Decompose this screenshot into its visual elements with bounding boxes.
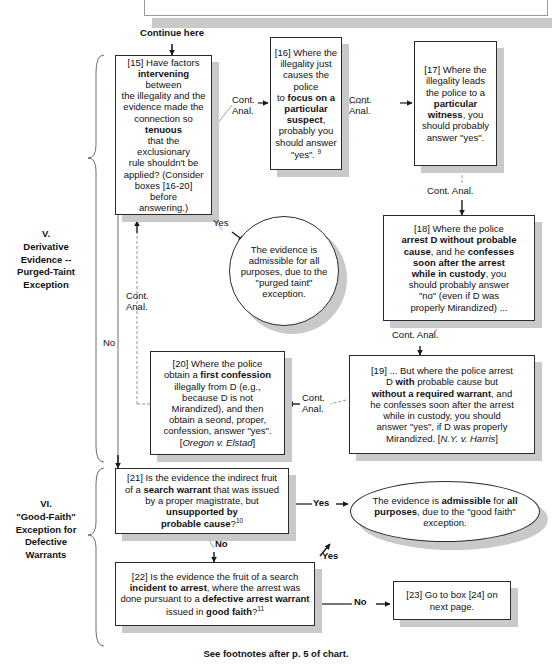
flowchart-canvas: Continue here V. Derivative Evidence -- … [0, 0, 552, 669]
edge-label-18-19-cont-anal: Cont. Anal. [392, 330, 462, 341]
box-15-l10: answering.) [139, 202, 188, 213]
box-19-l8: Mirandized. [ [386, 433, 440, 444]
box-17-l4: , you [463, 109, 484, 120]
edge-label-20-15-cont-anal: Cont. Anal. [126, 291, 160, 313]
ellipse-gf-l1: The evidence is [372, 495, 441, 506]
box-22-l4: issued in [166, 606, 206, 617]
box-18-l4: should probably answer [409, 279, 509, 290]
box-18-l5: "no" (even if D was [419, 290, 499, 301]
edge-label-17-18-cont-anal: Cont. Anal. [427, 186, 497, 197]
box-19-b2: without a required warrant [372, 388, 491, 399]
box-20-l4: because D is not [182, 392, 253, 403]
box-20-l1: [20] Where the police [173, 358, 263, 369]
box-22-l1: [22] Is the evidence the fruit of a sear… [132, 571, 298, 582]
box-15-l1: [15] Have factors [128, 57, 200, 68]
edge-label-22-no: No [354, 597, 374, 608]
ellipse-gf-l3: , due to the "good faith" [417, 506, 516, 517]
box-22-l2: , where the arrest was [207, 582, 300, 593]
box-15-l5: connection so [134, 113, 193, 124]
box-18-b4: soon after the arrest [413, 257, 505, 268]
box-16[interactable]: [16] Where the illegality just causes th… [270, 37, 342, 170]
box-23-l1: [23] Go to box [24] on [406, 589, 497, 600]
circle-purged-taint[interactable]: The evidence is admissible for all purpo… [229, 216, 339, 326]
box-15-b1: intervening [138, 68, 189, 79]
box-16-l3: causes the police [283, 69, 329, 91]
box-16-l8: "yes". [291, 149, 318, 160]
footer-note: See footnotes after p. 5 of chart. [0, 648, 552, 659]
box-15-l3: the illegality and the [122, 90, 206, 101]
box-19-l3: probable cause but [415, 376, 498, 387]
box-15-l8: applied? (Consider [124, 169, 204, 180]
circle-purged-l2: admissible for all [249, 255, 320, 266]
edge-label-21-no: No [215, 539, 235, 550]
box-16-footnote-marker: 9 [318, 148, 322, 155]
top-box-shadow [152, 18, 552, 28]
box-22-b3: good faith [206, 606, 252, 617]
edge-label-21-yes: Yes [313, 498, 337, 509]
ellipse-gf-l2: for [491, 495, 507, 506]
box-18-b3: confesses [468, 246, 514, 257]
box-15-l4: evidence made the [123, 101, 203, 112]
box-18-l3: , you [486, 268, 507, 279]
circle-purged-l1: The evidence is [251, 244, 318, 255]
box-16-l4: to [277, 92, 288, 103]
box-19[interactable]: [19] ... But where the police arrest D w… [349, 355, 535, 454]
box-15[interactable]: [15] Have factors intervening between th… [115, 55, 212, 215]
box-19-l2: D [386, 376, 396, 387]
box-17-b2: witness [428, 109, 463, 120]
box-17-l1: [17] Where the [424, 64, 486, 75]
box-22-b1: incident to arrest [130, 582, 207, 593]
ellipse-gf-b3: purposes [374, 506, 417, 517]
box-16-l6: probably you [279, 125, 333, 136]
ellipse-gf-b1: admissible [442, 495, 491, 506]
box-17-b1: particular [434, 98, 477, 109]
box-16-l5: , [323, 114, 326, 125]
edge-label-15-yes: Yes [213, 218, 237, 229]
box-22-footnote-marker: 11 [257, 605, 264, 612]
box-20-l9: ] [253, 437, 256, 448]
box-21-b3: probable cause [161, 518, 231, 529]
box-22-b2: defective arrest warrant [202, 593, 309, 604]
ellipse-gf-l4: exception. [423, 517, 466, 528]
edge-label-15-no: No [103, 338, 123, 349]
ellipse-good-faith[interactable]: The evidence is admissible for all purpo… [350, 481, 540, 542]
box-23-l2: next page. [430, 601, 474, 612]
box-17-l2: illegality leads [426, 75, 485, 86]
box-23[interactable]: [23] Go to box [24] on next page. [393, 581, 511, 620]
continue-here-label: Continue here [122, 28, 222, 39]
box-15-l2: between [146, 79, 182, 90]
box-20-l2: obtain a [164, 369, 200, 380]
box-19-l4: , and [491, 388, 512, 399]
top-cutoff-box [144, 0, 548, 16]
box-16-l7: should answer [275, 137, 336, 148]
box-18-l6: properly Mirandized) ... [410, 302, 507, 313]
box-20-b1: first confession [200, 369, 271, 380]
box-21[interactable]: [21] Is the evidence the indirect fruit … [115, 468, 289, 534]
box-18[interactable]: [18] Where the police arrest D without p… [383, 215, 535, 321]
box-20-citation: Oregon v. Elstad [182, 437, 252, 448]
box-16-l1: [16] Where the [275, 47, 337, 58]
box-22[interactable]: [22] Is the evidence the fruit of a sear… [115, 562, 315, 626]
edge-label-22-yes: Yes [322, 551, 346, 562]
box-20[interactable]: [20] Where the police obtain a first con… [150, 351, 285, 455]
box-16-b1: focus on a [288, 92, 336, 103]
box-19-l6: while in custody, you should [383, 410, 501, 421]
box-19-l9: ] [495, 433, 498, 444]
box-16-l2: illegality just [280, 58, 331, 69]
ellipse-gf-b2: all [507, 495, 518, 506]
section-label-v: V. Derivative Evidence -- Purged-Taint E… [4, 228, 88, 292]
box-21-footnote-marker: 10 [236, 517, 243, 524]
box-15-l7: rule shouldn't be [129, 157, 198, 168]
edge-label-16-17-cont-anal: Cont. Anal. [349, 95, 383, 117]
box-19-l7: answer "yes", if D was properly [377, 421, 508, 432]
section-label-vi: VI. "Good-Faith" Exception for Defective… [4, 498, 88, 562]
box-17[interactable]: [17] Where the illegality leads the poli… [414, 41, 497, 166]
box-19-b1: with [396, 376, 415, 387]
edge-label-15-16-cont-anal: Cont. Anal. [232, 95, 266, 117]
box-21-b2: unsupported by [166, 506, 238, 517]
box-15-l6: that the exclusionary [137, 135, 190, 157]
box-20-l7: confession, answer "yes". [163, 425, 271, 436]
box-18-b5: while in custody [412, 268, 486, 279]
box-19-l5: he confesses soon after the arrest [370, 399, 514, 410]
box-18-l1: [18] Where the police [414, 223, 504, 234]
